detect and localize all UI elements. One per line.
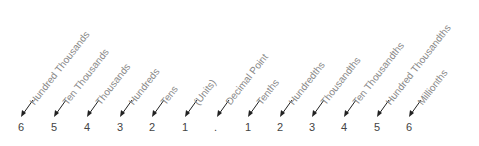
place-column: Ten Thousands5 (55, 0, 56, 146)
place-digit: 3 (309, 120, 315, 134)
place-column: Tenths1 (249, 0, 250, 146)
place-digit: 6 (18, 120, 24, 134)
place-column: Hundredths2 (281, 0, 282, 146)
place-digit: 3 (117, 120, 123, 134)
place-digit: 2 (149, 120, 155, 134)
place-column: Thousands4 (88, 0, 89, 146)
place-digit: 1 (182, 120, 188, 134)
place-digit: 1 (245, 120, 251, 134)
place-column: Hundreds3 (121, 0, 122, 146)
place-column: Millionths6 (410, 0, 411, 146)
place-digit: 4 (84, 120, 90, 134)
place-digit: 5 (51, 120, 57, 134)
place-column: Decimal Point. (218, 0, 219, 146)
place-column: Tens2 (153, 0, 154, 146)
place-digit: 2 (277, 120, 283, 134)
place-column: Thousandths3 (313, 0, 314, 146)
place-digit: 4 (341, 120, 347, 134)
place-column: Hundred Thousands6 (22, 0, 23, 146)
place-column: Ten Thousandths4 (345, 0, 346, 146)
place-column: (Units)1 (186, 0, 187, 146)
place-digit: 5 (374, 120, 380, 134)
place-column: Hundred Thousandths5 (378, 0, 379, 146)
place-digit: . (214, 120, 217, 134)
place-digit: 6 (406, 120, 412, 134)
